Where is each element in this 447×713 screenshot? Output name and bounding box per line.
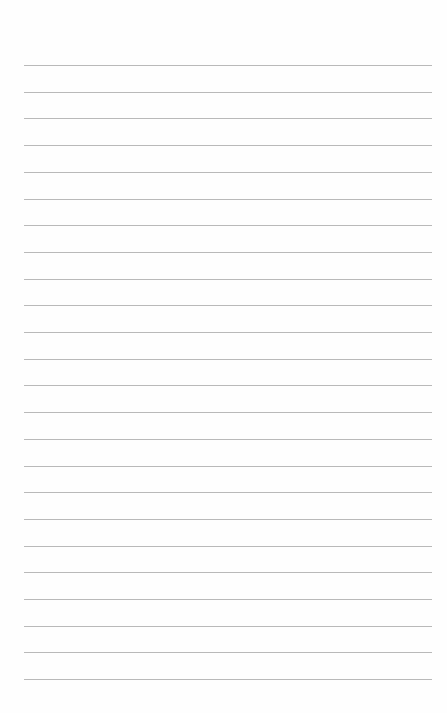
ruled-line	[24, 199, 432, 200]
ruled-line	[24, 626, 432, 627]
ruled-line	[24, 279, 432, 280]
ruled-line	[24, 65, 432, 66]
ruled-line	[24, 652, 432, 653]
ruled-line	[24, 92, 432, 93]
ruled-line	[24, 492, 432, 493]
ruled-line	[24, 332, 432, 333]
ruled-line	[24, 118, 432, 119]
ruled-line	[24, 599, 432, 600]
ruled-line	[24, 466, 432, 467]
ruled-line	[24, 172, 432, 173]
ruled-line	[24, 546, 432, 547]
ruled-line	[24, 572, 432, 573]
ruled-line	[24, 305, 432, 306]
ruled-line	[24, 225, 432, 226]
ruled-line	[24, 439, 432, 440]
ruled-line	[24, 385, 432, 386]
ruled-line	[24, 359, 432, 360]
ruled-line	[24, 252, 432, 253]
ruled-line	[24, 519, 432, 520]
ruled-line	[24, 412, 432, 413]
ruled-line	[24, 145, 432, 146]
lined-paper-page	[0, 0, 447, 713]
ruled-line	[24, 679, 432, 680]
